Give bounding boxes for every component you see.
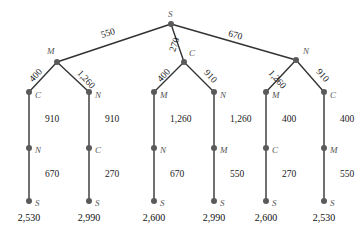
tree-node-label: S: [272, 199, 277, 208]
tree-node-label: M: [330, 146, 338, 155]
tree-node-dot: [86, 145, 92, 151]
tree-node-label: S: [220, 199, 225, 208]
tree-node-dot: [321, 89, 327, 95]
edge-distance-label: 1,260: [170, 115, 191, 125]
tree-node-label: S: [330, 199, 335, 208]
tree-node-label: M: [272, 91, 280, 100]
route-total-label: 2,600: [136, 213, 172, 223]
tree-node-label: N: [220, 91, 226, 100]
tree-node-dot: [211, 145, 217, 151]
tree-node-dot: [263, 145, 269, 151]
tree-node-dot: [26, 198, 32, 204]
edge-distance-label: 670: [45, 170, 59, 180]
tree-node-label: S: [168, 10, 173, 19]
edge-distance-label: 550: [230, 170, 244, 180]
tree-node-label: M: [220, 146, 228, 155]
tree-node-dot: [181, 59, 187, 65]
tree-node-dot: [151, 89, 157, 95]
tree-node-dot: [151, 198, 157, 204]
tree-node-label: C: [35, 91, 41, 100]
tree-node-label: S: [35, 199, 40, 208]
route-total-label: 2,600: [248, 213, 284, 223]
edge-distance-label: 670: [170, 170, 184, 180]
edge-distance-label: 270: [105, 170, 119, 180]
tree-node-label: C: [330, 91, 336, 100]
route-total-label: 2,530: [11, 213, 47, 223]
tree-node-dot: [26, 145, 32, 151]
edge-distance-label: 270: [282, 170, 296, 180]
edge-distance-label: 550: [340, 170, 354, 180]
tree-node-dot: [263, 89, 269, 95]
tree-node-dot: [321, 198, 327, 204]
tree-node-dot: [321, 145, 327, 151]
tree-node-dot: [263, 198, 269, 204]
tree-node-label: C: [272, 146, 278, 155]
route-total-label: 2,530: [306, 213, 342, 223]
tree-node-dot: [151, 145, 157, 151]
tree-node-dot: [211, 198, 217, 204]
tree-node-label: M: [160, 91, 168, 100]
tree-node-dot: [211, 89, 217, 95]
tree-node-label: N: [95, 91, 101, 100]
route-total-label: 2,990: [71, 213, 107, 223]
tree-node-dot: [54, 59, 60, 65]
tree-node-label: N: [160, 146, 166, 155]
tree-node-label: S: [95, 199, 100, 208]
tree-node-dot: [26, 89, 32, 95]
tree-node-label: C: [189, 49, 195, 58]
edge-distance-label: 1,260: [230, 115, 251, 125]
tree-node-label: C: [95, 146, 101, 155]
tree-node-label: N: [35, 146, 41, 155]
route-tree-diagram: SMCNCNMNMCNCNMCMSSSSSS 5502706704001,260…: [0, 0, 361, 231]
tree-node-label: N: [303, 47, 309, 56]
tree-node-dot: [293, 57, 299, 63]
tree-node-dot: [86, 198, 92, 204]
tree-node-label: M: [47, 47, 55, 56]
tree-node-dot: [168, 21, 174, 27]
edge-distance-label: 910: [105, 115, 119, 125]
edge-distance-label: 400: [340, 115, 354, 125]
edge-distance-label: 910: [45, 115, 59, 125]
tree-node-label: S: [160, 199, 165, 208]
edge-distance-label: 400: [282, 115, 296, 125]
route-total-label: 2,990: [196, 213, 232, 223]
